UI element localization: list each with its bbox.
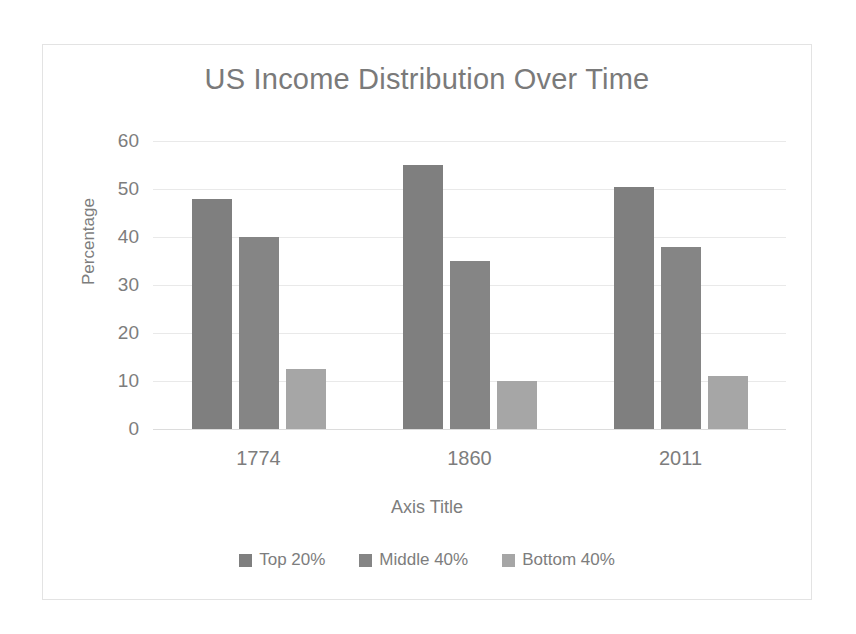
y-axis-tick-label: 0	[128, 418, 139, 440]
legend-label: Middle 40%	[379, 550, 468, 570]
bar-group	[192, 141, 326, 429]
bar	[497, 381, 537, 429]
y-axis-tick-label: 50	[118, 178, 139, 200]
x-axis-tick-label: 2011	[659, 447, 702, 470]
chart-title: US Income Distribution Over Time	[43, 63, 811, 96]
x-axis-tick-label: 1774	[236, 447, 281, 470]
legend-swatch-icon	[502, 554, 515, 567]
plot-area: 0102030405060 177418602011	[153, 141, 786, 429]
bar	[192, 199, 232, 429]
bar	[239, 237, 279, 429]
bar	[708, 376, 748, 429]
gridline	[153, 429, 786, 430]
bar	[450, 261, 490, 429]
bar	[286, 369, 326, 429]
y-axis-tick-label: 60	[118, 130, 139, 152]
y-axis-tick-label: 40	[118, 226, 139, 248]
y-axis-tick-label: 10	[118, 370, 139, 392]
legend-item[interactable]: Middle 40%	[359, 550, 468, 570]
chart-legend: Top 20%Middle 40%Bottom 40%	[43, 550, 811, 570]
legend-label: Bottom 40%	[522, 550, 615, 570]
x-axis-tick-label: 1860	[447, 447, 492, 470]
y-axis-tick-label: 20	[118, 322, 139, 344]
y-axis-title: Percentage	[79, 198, 99, 285]
x-axis-title: Axis Title	[43, 497, 811, 518]
bar-group	[403, 141, 537, 429]
legend-swatch-icon	[359, 554, 372, 567]
legend-swatch-icon	[239, 554, 252, 567]
chart-container: US Income Distribution Over Time Percent…	[42, 44, 812, 600]
legend-item[interactable]: Top 20%	[239, 550, 325, 570]
bar	[614, 187, 654, 429]
bars-layer	[153, 141, 786, 429]
bar-group	[614, 141, 748, 429]
bar	[661, 247, 701, 429]
legend-label: Top 20%	[259, 550, 325, 570]
y-axis-tick-label: 30	[118, 274, 139, 296]
bar	[403, 165, 443, 429]
legend-item[interactable]: Bottom 40%	[502, 550, 615, 570]
